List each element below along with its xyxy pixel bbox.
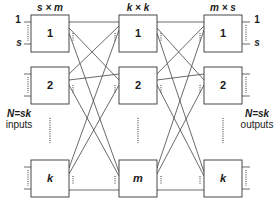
output-first-label: 1	[254, 14, 260, 25]
stage2-box-m-label: m	[133, 172, 143, 184]
stage3-label: m × s	[210, 2, 236, 13]
stage1-box-2-label: 2	[47, 79, 53, 91]
stage3-box-1-label: 1	[220, 27, 226, 39]
stage3-box-k-label: k	[220, 172, 227, 184]
stage1-box-k-label: k	[47, 172, 54, 184]
stage3-box-2-label: 2	[220, 79, 226, 91]
output-last-label: s	[254, 37, 260, 48]
clos-network-diagram: s × m k × k m × s 1 2 k 1 2 m 1 2 k 1 s …	[0, 0, 275, 206]
switch-boxes	[31, 15, 242, 197]
stage2-box-1-label: 1	[135, 27, 141, 39]
outputs-label: outputs	[241, 119, 274, 130]
outputs-count-label: N=sk	[245, 108, 270, 119]
stage1-box-1-label: 1	[47, 27, 53, 39]
stage1-label: s × m	[37, 2, 63, 13]
inputs-label: inputs	[6, 119, 33, 130]
input-first-label: 1	[15, 14, 21, 25]
stage2-label: k × k	[127, 2, 150, 13]
inputs-count-label: N=sk	[7, 108, 32, 119]
stage2-box-2-label: 2	[135, 79, 141, 91]
input-last-label: s	[16, 37, 22, 48]
